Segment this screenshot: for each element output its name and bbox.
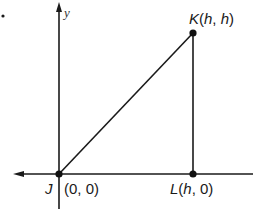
point-K-label: K(h, h) [189,10,234,27]
x-axis-arrow-icon [13,171,24,177]
point-L [189,170,196,177]
point-J-coords: (0, 0) [64,180,99,197]
point-J-name: J [44,180,53,197]
list-bullet [1,14,4,17]
coordinate-diagram: y J (0, 0) K(h, h) L(h, 0) [0,0,253,209]
point-K [189,29,196,36]
point-J [55,170,62,177]
point-L-name: L [170,180,178,197]
y-axis-label: y [62,5,70,20]
y-axis-arrow-icon [56,2,62,12]
segment-JK [59,33,193,174]
point-L-label: L(h, 0) [170,180,213,197]
